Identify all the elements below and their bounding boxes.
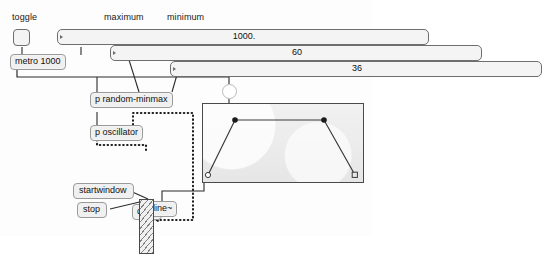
vertical-slider[interactable] <box>139 199 154 254</box>
comment-maximum: maximum <box>104 12 144 22</box>
envelope-trace <box>203 104 363 182</box>
number-box-maximum[interactable]: 60 <box>110 45 482 61</box>
object-oscillator[interactable]: p oscillator <box>90 125 143 141</box>
envelope-editor[interactable] <box>202 103 364 183</box>
object-metro[interactable]: metro 1000 <box>10 54 66 70</box>
number-box-minimum[interactable]: 36 <box>170 61 542 77</box>
slider-hatch-fill <box>140 200 153 253</box>
signal-cord-oscillator-to-dac <box>97 140 146 152</box>
number-box-value: 1000. <box>233 31 256 41</box>
envelope-point-end[interactable] <box>352 172 357 177</box>
number-box-value: 36 <box>352 63 362 73</box>
toggle-object[interactable] <box>13 29 30 46</box>
comment-toggle: toggle <box>12 12 37 22</box>
message-stop[interactable]: stop <box>77 202 107 218</box>
comment-minimum: minimum <box>167 12 204 22</box>
envelope-point-start[interactable] <box>205 172 210 177</box>
number-box-arrow <box>113 51 116 55</box>
envelope-polyline <box>208 120 355 175</box>
number-box-arrow <box>60 35 63 39</box>
envelope-point-attack[interactable] <box>232 117 238 123</box>
number-box-arrow <box>173 67 176 71</box>
number-box-value: 60 <box>292 47 302 57</box>
message-startwindow[interactable]: startwindow <box>73 183 134 199</box>
object-random-minmax[interactable]: p random-minmax <box>90 92 173 108</box>
bang-object[interactable] <box>222 84 237 99</box>
number-box-metro-interval[interactable]: 1000. <box>57 29 429 45</box>
envelope-point-sustain[interactable] <box>321 117 327 123</box>
cord-envelope-to-line <box>162 180 204 201</box>
